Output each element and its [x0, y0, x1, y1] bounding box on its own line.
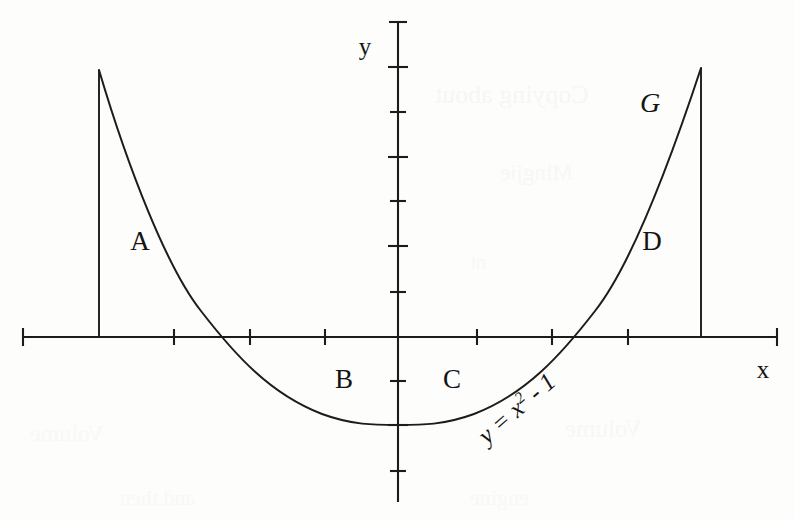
figure-container: Copying aboutMingjientVolumeand thenengi… [0, 0, 795, 521]
region-label-d: D [642, 226, 662, 256]
region-label-a: A [130, 226, 150, 256]
curve-equation-group: y = x2 - 1 [470, 367, 561, 451]
parabola-figure: y x A B C D G y = x2 - 1 [0, 0, 795, 521]
curve-equation: y = x2 - 1 [470, 367, 561, 451]
axes-group [23, 22, 777, 502]
y-axis-label: y [359, 33, 372, 60]
curve-label-g: G [640, 87, 660, 118]
region-label-b: B [335, 364, 353, 394]
x-axis-label: x [757, 356, 770, 383]
region-label-c: C [443, 364, 461, 394]
